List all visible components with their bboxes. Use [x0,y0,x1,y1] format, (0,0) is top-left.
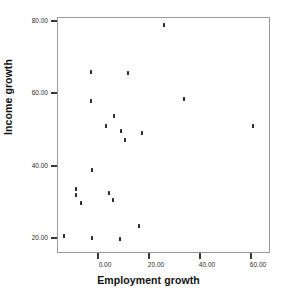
x-tick-mark [148,253,150,259]
y-tick-label: 20.00 [20,234,48,241]
scatter-chart: 80.00 60.00 40.00 20.00 0.00 20.00 40.00… [0,0,297,299]
x-axis-title: Employment growth [0,274,297,286]
x-tick-mark [97,253,99,259]
y-tick-label: 40.00 [20,162,48,169]
x-tick-label: 0.00 [99,261,112,268]
x-tick-label: 40.00 [199,261,215,268]
x-tick-label: 20.00 [148,261,164,268]
y-tick-mark [51,237,57,239]
y-tick-mark [51,165,57,167]
plot-area [57,17,270,253]
x-tick-mark [250,253,252,259]
x-tick-label: 60.00 [250,261,266,268]
y-tick-label: 80.00 [20,17,48,24]
y-tick-mark [51,92,57,94]
y-tick-mark [51,20,57,22]
y-axis-title: Income growth [2,59,14,135]
y-tick-label: 60.00 [20,89,48,96]
x-tick-mark [199,253,201,259]
